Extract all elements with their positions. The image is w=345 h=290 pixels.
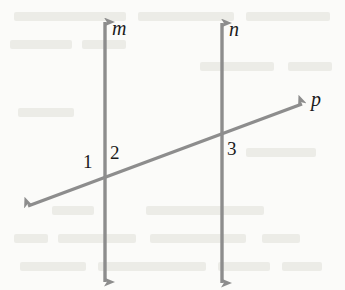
line-label-n: n: [229, 19, 239, 39]
line-p: [28, 104, 302, 206]
angle-label-3: 3: [227, 139, 237, 158]
figure-canvas: [0, 0, 345, 290]
line-label-p: p: [311, 89, 321, 109]
geometry-figure: m n p 1 2 3: [0, 0, 345, 290]
lines-group: [28, 22, 302, 283]
line-label-m: m: [112, 18, 126, 38]
angle-label-1: 1: [83, 152, 93, 171]
angle-label-2: 2: [110, 143, 120, 162]
